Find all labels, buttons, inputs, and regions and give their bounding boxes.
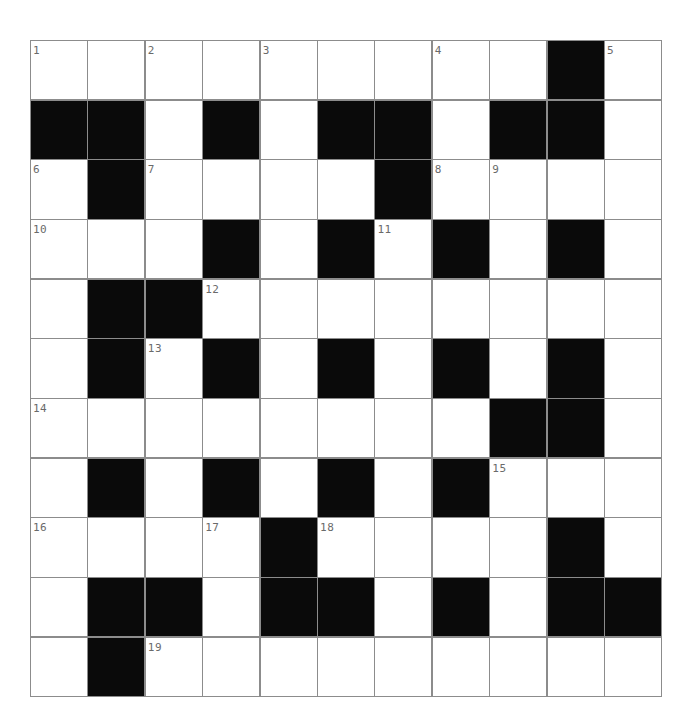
letter-input[interactable] [318,160,374,218]
letter-input[interactable] [375,399,431,457]
letter-input[interactable] [605,280,661,338]
letter-input[interactable] [88,220,144,278]
letter-input[interactable] [146,518,202,576]
answer-cell[interactable] [88,41,144,99]
letter-input[interactable] [31,578,87,636]
answer-cell[interactable] [31,459,87,517]
letter-input[interactable] [31,638,87,696]
letter-input[interactable] [433,160,489,218]
letter-input[interactable] [318,638,374,696]
letter-input[interactable] [433,638,489,696]
letter-input[interactable] [146,160,202,218]
letter-input[interactable] [490,220,546,278]
answer-cell[interactable] [375,399,431,457]
answer-cell[interactable]: 1 [31,41,87,99]
answer-cell[interactable] [203,578,259,636]
answer-cell[interactable]: 14 [31,399,87,457]
answer-cell[interactable] [605,638,661,696]
letter-input[interactable] [548,638,604,696]
letter-input[interactable] [146,399,202,457]
answer-cell[interactable]: 4 [433,41,489,99]
letter-input[interactable] [31,280,87,338]
letter-input[interactable] [548,160,604,218]
answer-cell[interactable] [605,101,661,159]
letter-input[interactable] [31,399,87,457]
letter-input[interactable] [31,160,87,218]
answer-cell[interactable] [318,638,374,696]
answer-cell[interactable]: 12 [203,280,259,338]
answer-cell[interactable] [548,459,604,517]
answer-cell[interactable] [375,638,431,696]
answer-cell[interactable] [605,280,661,338]
answer-cell[interactable] [490,638,546,696]
answer-cell[interactable] [261,399,317,457]
answer-cell[interactable]: 7 [146,160,202,218]
letter-input[interactable] [146,339,202,397]
letter-input[interactable] [433,518,489,576]
letter-input[interactable] [433,101,489,159]
answer-cell[interactable] [146,459,202,517]
answer-cell[interactable] [605,459,661,517]
letter-input[interactable] [605,160,661,218]
letter-input[interactable] [375,578,431,636]
answer-cell[interactable] [318,280,374,338]
letter-input[interactable] [203,399,259,457]
answer-cell[interactable]: 10 [31,220,87,278]
answer-cell[interactable] [146,220,202,278]
answer-cell[interactable] [605,518,661,576]
answer-cell[interactable] [375,41,431,99]
answer-cell[interactable]: 3 [261,41,317,99]
letter-input[interactable] [203,518,259,576]
answer-cell[interactable] [88,399,144,457]
answer-cell[interactable] [203,41,259,99]
answer-cell[interactable] [605,399,661,457]
answer-cell[interactable]: 16 [31,518,87,576]
answer-cell[interactable] [433,101,489,159]
answer-cell[interactable] [261,220,317,278]
letter-input[interactable] [203,41,259,99]
letter-input[interactable] [490,339,546,397]
answer-cell[interactable] [548,160,604,218]
letter-input[interactable] [203,280,259,338]
answer-cell[interactable] [31,578,87,636]
answer-cell[interactable] [261,339,317,397]
letter-input[interactable] [605,101,661,159]
letter-input[interactable] [490,578,546,636]
letter-input[interactable] [318,280,374,338]
letter-input[interactable] [605,518,661,576]
letter-input[interactable] [375,638,431,696]
answer-cell[interactable] [146,518,202,576]
answer-cell[interactable] [490,578,546,636]
letter-input[interactable] [31,220,87,278]
letter-input[interactable] [605,220,661,278]
answer-cell[interactable] [31,339,87,397]
letter-input[interactable] [433,41,489,99]
answer-cell[interactable] [318,160,374,218]
letter-input[interactable] [203,578,259,636]
answer-cell[interactable] [490,518,546,576]
letter-input[interactable] [375,339,431,397]
letter-input[interactable] [490,459,546,517]
answer-cell[interactable] [203,638,259,696]
letter-input[interactable] [146,220,202,278]
letter-input[interactable] [490,638,546,696]
answer-cell[interactable] [605,160,661,218]
answer-cell[interactable] [318,41,374,99]
answer-cell[interactable]: 17 [203,518,259,576]
answer-cell[interactable] [261,638,317,696]
answer-cell[interactable]: 13 [146,339,202,397]
answer-cell[interactable] [261,101,317,159]
letter-input[interactable] [375,220,431,278]
letter-input[interactable] [318,41,374,99]
answer-cell[interactable]: 15 [490,459,546,517]
letter-input[interactable] [375,41,431,99]
letter-input[interactable] [605,399,661,457]
letter-input[interactable] [88,518,144,576]
letter-input[interactable] [146,41,202,99]
letter-input[interactable] [146,459,202,517]
letter-input[interactable] [605,638,661,696]
answer-cell[interactable]: 6 [31,160,87,218]
answer-cell[interactable] [605,220,661,278]
letter-input[interactable] [318,518,374,576]
letter-input[interactable] [31,459,87,517]
